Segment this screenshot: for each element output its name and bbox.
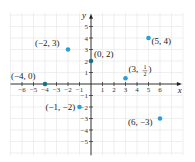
x-tick-label: −5	[30, 86, 38, 94]
data-point: (5, 4)	[146, 36, 171, 46]
y-tick-label: −5	[81, 138, 89, 146]
point-label: (6, −3)	[128, 117, 153, 127]
y-tick-label: −1	[81, 92, 89, 100]
y-tick-label: 4	[85, 35, 89, 43]
y-tick-label: −3	[81, 115, 89, 123]
y-axis-label: y	[81, 10, 86, 20]
x-tick-label: 3	[124, 86, 128, 94]
svg-text:1: 1	[144, 64, 147, 70]
svg-text:2: 2	[144, 71, 147, 77]
point-marker-icon	[158, 116, 163, 121]
point-label: (−2, 3)	[35, 38, 60, 48]
x-tick-label: 5	[147, 86, 151, 94]
point-marker-icon	[77, 105, 82, 110]
x-tick-label: −4	[41, 86, 49, 94]
x-tick-label: −2	[64, 86, 72, 94]
x-axis-label: x	[177, 85, 182, 95]
x-tick-label: −3	[53, 86, 61, 94]
data-point: (6, −3)	[128, 116, 162, 126]
y-tick-label: 2	[85, 58, 89, 66]
y-axis-arrow-icon	[89, 14, 93, 19]
point-label: (−1, −2)	[46, 102, 76, 112]
y-tick-label: −4	[81, 127, 89, 135]
point-marker-icon	[66, 47, 71, 52]
point-label: (3,	[129, 64, 139, 74]
point-label: (−4, 0)	[11, 71, 36, 81]
y-tick-label: 3	[85, 46, 89, 54]
svg-text:): )	[149, 64, 152, 74]
x-tick-label: 6	[158, 86, 162, 94]
point-marker-icon	[89, 59, 94, 64]
y-tick-label: 1	[85, 69, 89, 77]
x-tick-label: 4	[135, 86, 139, 94]
y-tick-label: 5	[85, 23, 89, 31]
point-label: (5, 4)	[152, 36, 172, 46]
point-label: (0, 2)	[94, 49, 114, 59]
point-marker-icon	[146, 36, 151, 41]
coordinate-plane: xy −6−5−4−3−2−1123456−5−4−3−2−112345 (−2…	[0, 0, 195, 162]
x-tick-label: −6	[18, 86, 26, 94]
x-tick-label: 2	[112, 86, 116, 94]
point-marker-icon	[43, 82, 48, 87]
axes: xy	[11, 10, 182, 155]
x-tick-label: 1	[101, 86, 105, 94]
point-marker-icon	[123, 76, 128, 81]
